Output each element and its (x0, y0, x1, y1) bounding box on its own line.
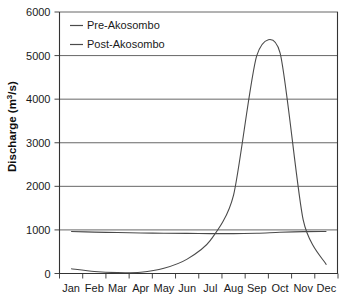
y-tick-label-5000: 5000 (26, 50, 50, 62)
y-axis-title: Discharge (m3/s) (5, 81, 18, 172)
x-tick-label-sep: Sep (247, 282, 267, 294)
y-axis-title-text: Discharge (m3/s) (5, 81, 18, 172)
x-tick-label-mar: Mar (108, 282, 127, 294)
y-tick-label-6000: 6000 (26, 6, 50, 18)
x-tick-marks (60, 274, 339, 279)
x-tick-label-jan: Jan (62, 282, 80, 294)
chart-legend: Pre-Akosombo Post-Akosombo (70, 19, 165, 50)
y-tick-marks (55, 12, 60, 274)
series-lines (71, 39, 326, 272)
x-tick-label-jun: Jun (178, 282, 196, 294)
x-tick-label-nov: Nov (293, 282, 313, 294)
x-tick-label-may: May (154, 282, 175, 294)
y-tick-label-0: 0 (44, 268, 50, 280)
y-tick-labels: 0100020003000400050006000 (26, 6, 50, 280)
y-axis-title-prefix: Discharge (m (6, 99, 18, 172)
y-axis-title-suffix: /s) (6, 81, 18, 95)
series-line-post-akosombo (71, 231, 326, 233)
legend-label-post-akosombo: Post-Akosombo (87, 38, 165, 50)
x-tick-labels: JanFebMarAprMayJunJulAugSepOctNovDec (62, 282, 336, 294)
x-tick-label-oct: Oct (271, 282, 288, 294)
chart-canvas: 0100020003000400050006000 JanFebMarAprMa… (0, 0, 348, 304)
y-tick-label-1000: 1000 (26, 224, 50, 236)
y-tick-label-3000: 3000 (26, 137, 50, 149)
x-tick-label-aug: Aug (224, 282, 244, 294)
x-tick-label-apr: Apr (132, 282, 149, 294)
x-tick-label-feb: Feb (85, 282, 104, 294)
x-tick-label-jul: Jul (203, 282, 217, 294)
legend-label-pre-akosombo: Pre-Akosombo (87, 19, 160, 31)
x-tick-label-dec: Dec (317, 282, 337, 294)
discharge-line-chart: 0100020003000400050006000 JanFebMarAprMa… (0, 0, 348, 304)
y-tick-label-4000: 4000 (26, 93, 50, 105)
series-line-pre-akosombo (71, 39, 326, 272)
y-tick-label-2000: 2000 (26, 180, 50, 192)
